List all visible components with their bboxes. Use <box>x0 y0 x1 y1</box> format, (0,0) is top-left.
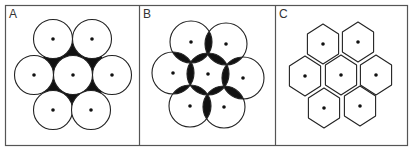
center-dot <box>358 104 362 108</box>
center-dot <box>356 40 360 44</box>
center-dot <box>51 37 55 41</box>
center-dot <box>321 42 325 46</box>
center-dot <box>206 72 210 76</box>
center-dot <box>374 73 378 77</box>
center-dot <box>222 105 226 109</box>
center-dot <box>51 108 55 112</box>
center-dot <box>241 76 245 80</box>
center-dot <box>171 71 175 75</box>
center-dot <box>71 73 75 77</box>
center-dot <box>90 37 94 41</box>
center-dot <box>339 73 343 77</box>
panel-c-label: C <box>279 7 288 21</box>
center-dot <box>189 40 193 44</box>
panel-b-label: B <box>143 7 151 21</box>
center-dot <box>188 104 192 108</box>
center-dot <box>110 73 114 77</box>
center-dot <box>303 74 307 78</box>
center-dot <box>224 42 228 46</box>
center-dot <box>32 73 36 77</box>
panel-a-label: A <box>9 7 17 21</box>
packing-diagram: A B C <box>0 0 411 149</box>
center-dot <box>89 108 93 112</box>
center-dot <box>322 106 326 110</box>
